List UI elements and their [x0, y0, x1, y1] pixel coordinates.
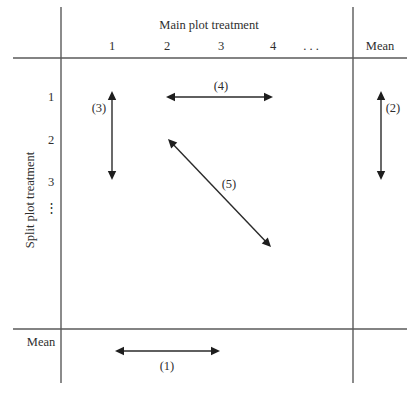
- comparison-label-2: (2): [386, 101, 401, 115]
- split-plot-comparison-diagram: Main plot treatment 1 2 3 4 . . . Mean S…: [0, 0, 415, 395]
- comparison-arrow-1-end-arrowhead-icon: [211, 347, 220, 355]
- comparison-label-5: (5): [222, 177, 237, 191]
- row-label-2: 2: [48, 133, 54, 147]
- column-header-title: Main plot treatment: [159, 18, 259, 32]
- row-label-3: 3: [48, 175, 54, 189]
- comparison-arrow-4-start-arrowhead-icon: [166, 93, 175, 101]
- comparison-arrow-3-end-arrowhead-icon: [108, 171, 116, 180]
- comparison-label-1: (1): [160, 359, 175, 373]
- comparison-label-4: (4): [214, 79, 229, 93]
- row-label-ellipsis: ⋮: [45, 201, 58, 215]
- row-header-title: Split plot treatment: [23, 151, 37, 248]
- column-label-ellipsis: . . .: [303, 39, 319, 53]
- column-label-4: 4: [270, 39, 277, 53]
- comparison-arrows: [108, 91, 385, 355]
- comparison-arrow-2-start-arrowhead-icon: [377, 91, 385, 100]
- column-mean-label: Mean: [366, 39, 395, 53]
- column-label-1: 1: [109, 39, 115, 53]
- comparison-arrow-1-start-arrowhead-icon: [115, 347, 124, 355]
- comparison-arrow-5-shaft: [174, 145, 266, 241]
- comparison-arrow-3-start-arrowhead-icon: [108, 91, 116, 100]
- comparison-arrow-4-end-arrowhead-icon: [264, 93, 273, 101]
- column-label-3: 3: [218, 39, 224, 53]
- comparison-label-3: (3): [92, 101, 107, 115]
- row-label-1: 1: [48, 90, 54, 104]
- comparison-arrow-2-end-arrowhead-icon: [377, 171, 385, 180]
- column-label-2: 2: [164, 39, 170, 53]
- row-mean-label: Mean: [27, 335, 56, 349]
